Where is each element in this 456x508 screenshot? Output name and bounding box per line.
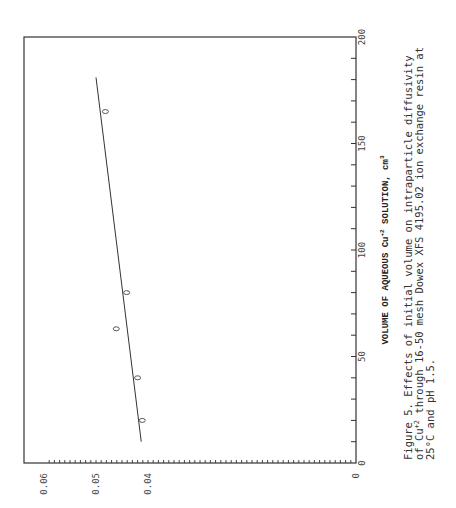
x-tick-label: 200: [357, 29, 367, 45]
data-point-marker: [102, 110, 108, 114]
x-tick-label: 0: [357, 460, 367, 465]
caption-line: 25°C and pH 1.5.: [424, 359, 436, 460]
data-point-marker: [135, 376, 141, 380]
data-point-marker: [124, 291, 130, 295]
x-axis-title-text: VOLUME OF AQUEOUS Cu: [381, 237, 391, 345]
y-tick-label: 0.05: [91, 473, 101, 495]
tick-labels: 05010015020000.040.050.06: [39, 29, 367, 495]
axis-ticks: [49, 58, 356, 463]
x-axis-title: VOLUME OF AQUEOUS Cu+2 SOLUTION, cm3: [379, 155, 391, 344]
data-point-marker: [113, 327, 119, 331]
x-axis-title-text-tail: SOLUTION, cm: [381, 158, 391, 229]
y-tick-label: 0.04: [143, 473, 153, 495]
x-axis-title-unit-superscript: 3: [379, 155, 386, 159]
data-series: [96, 77, 145, 441]
plot-frame: [24, 37, 356, 463]
figure-5-chart: 05010015020000.040.050.06 VOLUME OF AQUE…: [0, 0, 456, 508]
y-tick-label: 0.06: [39, 473, 49, 495]
caption-superscript: +2: [413, 420, 421, 428]
y-tick-label: 0: [351, 473, 361, 478]
x-tick-label: 100: [357, 242, 367, 258]
figure-caption: Figure 5. Effects of initial volume on i…: [402, 47, 436, 460]
plot-border: [24, 37, 356, 463]
axis-title: VOLUME OF AQUEOUS Cu+2 SOLUTION, cm3: [379, 155, 391, 344]
x-tick-label: 150: [357, 135, 367, 151]
x-tick-label: 50: [357, 351, 367, 362]
data-point-marker: [139, 418, 145, 422]
fit-line: [96, 77, 141, 441]
